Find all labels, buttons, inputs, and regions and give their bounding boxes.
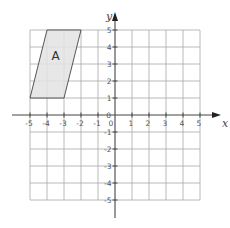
y-tick-label: 3 [107, 60, 112, 69]
x-tick-label: -5 [25, 119, 33, 128]
y-tick-label: -4 [104, 179, 112, 188]
shape-label: A [51, 49, 60, 63]
origin-label-y: 0 [106, 111, 111, 120]
x-tick-label: -2 [76, 119, 84, 128]
x-axis-arrow-icon [212, 112, 221, 118]
y-tick-label: -3 [104, 162, 112, 171]
y-tick-label: -5 [104, 196, 112, 205]
y-tick-label: -1 [104, 128, 112, 137]
x-tick-label: -4 [42, 119, 50, 128]
x-tick-label: 2 [146, 119, 151, 128]
x-tick-label: 3 [163, 119, 168, 128]
y-tick-label: 5 [107, 26, 112, 35]
y-tick-label: 4 [107, 43, 112, 52]
y-tick-label: 1 [107, 94, 112, 103]
x-axis-label: x [222, 117, 229, 130]
x-tick-label: 5 [197, 119, 202, 128]
x-tick-label: -3 [59, 119, 67, 128]
y-tick-label: -2 [104, 145, 112, 154]
x-tick-label: 1 [129, 119, 134, 128]
coordinate-grid: A -5-4-3-2-1123450054321-1-2-3-4-5xy [0, 0, 230, 228]
y-axis-label: y [105, 10, 113, 23]
y-axis-arrow-icon [112, 12, 118, 21]
x-tick-label: 4 [180, 119, 185, 128]
origin-label: 0 [109, 119, 114, 128]
x-tick-label: -1 [93, 119, 101, 128]
y-tick-label: 2 [107, 77, 112, 86]
